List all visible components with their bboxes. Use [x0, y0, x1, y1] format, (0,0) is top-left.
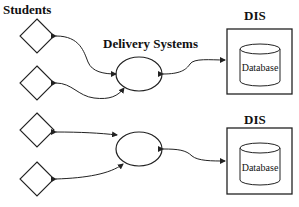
edge-student4-delivery2 — [56, 164, 123, 179]
database-label-top: Database — [242, 62, 279, 73]
edge-student2-delivery1 — [56, 83, 124, 99]
student-diamond-4 — [20, 162, 54, 196]
delivery-system-ellipse-2 — [116, 132, 162, 166]
edge-student3-delivery2 — [56, 132, 117, 135]
edge-delivery1-dis1 — [163, 60, 225, 74]
student-diamond-3 — [20, 113, 54, 147]
student-diamond-2 — [20, 66, 54, 100]
delivery-systems-label: Delivery Systems — [103, 36, 198, 51]
student-diamond-1 — [20, 19, 54, 53]
students-label: Students — [3, 2, 51, 17]
edge-delivery2-dis2 — [163, 149, 225, 161]
dis-label-top: DIS — [244, 8, 266, 23]
delivery-system-ellipse-1 — [116, 57, 162, 91]
database-label-bottom: Database — [242, 162, 279, 173]
dis-label-bottom: DIS — [244, 112, 266, 127]
diagram-canvas: Students Delivery Systems DIS DIS Databa… — [0, 0, 299, 207]
diagram-svg: Students Delivery Systems DIS DIS Databa… — [0, 0, 299, 207]
